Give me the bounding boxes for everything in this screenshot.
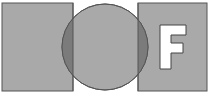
venn-squares-diagram xyxy=(0,0,209,98)
